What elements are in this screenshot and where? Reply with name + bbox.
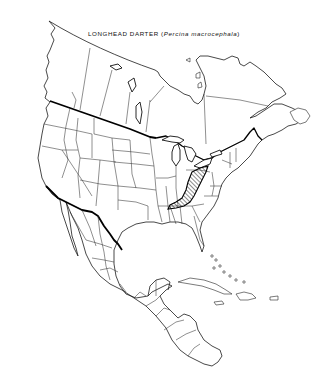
great-bear-lake bbox=[110, 64, 122, 70]
island bbox=[186, 58, 190, 62]
province-border bbox=[150, 86, 164, 102]
puerto-rico bbox=[270, 296, 278, 300]
us-atlantic-coast bbox=[202, 140, 262, 222]
gulf-of-mexico-coast bbox=[114, 222, 204, 298]
province-border bbox=[206, 96, 268, 106]
map-graphic bbox=[0, 0, 322, 388]
lake-winnipeg bbox=[136, 102, 142, 124]
great-slave-lake bbox=[128, 78, 136, 92]
species-range-area bbox=[168, 166, 208, 209]
lake-huron bbox=[184, 146, 196, 162]
province-border bbox=[80, 48, 90, 110]
us-mexico-border bbox=[46, 186, 122, 250]
northern-map-edge bbox=[49, 21, 155, 70]
hudson-bay-coast bbox=[155, 56, 206, 104]
bahamas bbox=[211, 255, 245, 283]
us-state-borders bbox=[42, 108, 236, 246]
island bbox=[196, 72, 200, 78]
province-border bbox=[72, 92, 76, 108]
lake-superior bbox=[162, 136, 184, 143]
newfoundland bbox=[290, 108, 310, 124]
province-border bbox=[126, 92, 130, 124]
province-border bbox=[204, 94, 206, 144]
lake-michigan bbox=[172, 144, 180, 166]
lake-ontario bbox=[210, 150, 222, 157]
jamaica bbox=[214, 301, 224, 305]
central-america-caribbean-coast bbox=[148, 284, 222, 362]
yucatan-coast bbox=[148, 278, 170, 296]
cuba bbox=[178, 278, 232, 294]
labrador-coast bbox=[200, 56, 286, 118]
province-border bbox=[146, 100, 150, 132]
hispaniola bbox=[236, 292, 256, 300]
pacific-northwest-coast bbox=[42, 21, 55, 134]
range-map: LONGHEAD DARTER (Percina macrocephala) bbox=[0, 0, 322, 388]
province-border bbox=[100, 70, 112, 116]
island bbox=[198, 82, 202, 88]
mexico-state-borders bbox=[70, 210, 146, 298]
